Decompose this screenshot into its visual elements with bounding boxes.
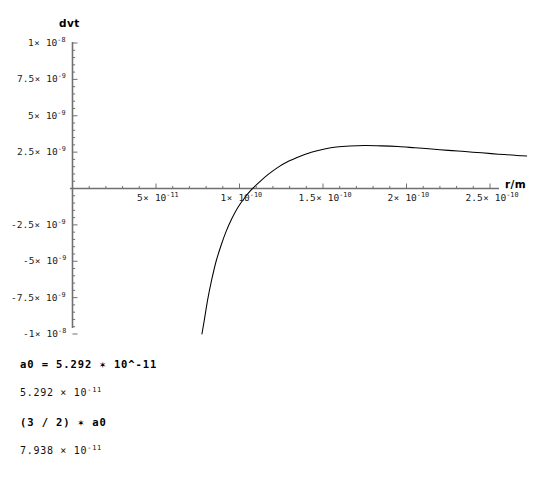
x-tick-label: 2× 10-10 — [388, 193, 430, 203]
x-tick-label: 2.5× 10-10 — [466, 193, 519, 203]
y-tick-label: -1× 10-8 — [23, 329, 66, 339]
x-tick-label: 1.5× 10-10 — [299, 193, 352, 203]
output-2-exponent: -11 — [87, 444, 102, 452]
y-tick-label: 7.5× 10-9 — [17, 74, 66, 84]
y-tick-label: 5× 10-9 — [28, 111, 66, 121]
plot-graphics — [0, 0, 558, 345]
output-2-mantissa: 7.938 × 10 — [20, 445, 87, 456]
notebook-input-cell-1[interactable]: a0 = 5.292 ✶ 10^-11 — [20, 359, 157, 370]
x-axis-label: r/m — [505, 178, 526, 190]
x-tick-label: 5× 10-11 — [137, 193, 179, 203]
y-tick-label: 1× 10-8 — [28, 38, 66, 48]
y-tick-label: -7.5× 10-9 — [11, 293, 66, 303]
plot-region: dvt r/m 5× 10-111× 10-101.5× 10-102× 10-… — [0, 0, 558, 345]
y-tick-label: -5× 10-9 — [23, 256, 66, 266]
y-tick-label: 2.5× 10-9 — [17, 147, 66, 157]
notebook-output-cell-2: 7.938 × 10-11 — [20, 446, 102, 456]
y-tick-label: -2.5× 10-9 — [11, 220, 66, 230]
notebook-input-cell-2[interactable]: (3 / 2) ✶ a0 — [20, 417, 107, 428]
notebook-cells: a0 = 5.292 ✶ 10^-11 5.292 × 10-11 (3 / 2… — [0, 345, 558, 477]
x-tick-label: 1× 10-10 — [221, 193, 263, 203]
notebook-output-cell-1: 5.292 × 10-11 — [20, 388, 102, 398]
y-axis-label: dvt — [59, 17, 80, 29]
dvt-curve — [202, 146, 527, 334]
output-1-mantissa: 5.292 × 10 — [20, 387, 87, 398]
output-1-exponent: -11 — [87, 386, 102, 394]
